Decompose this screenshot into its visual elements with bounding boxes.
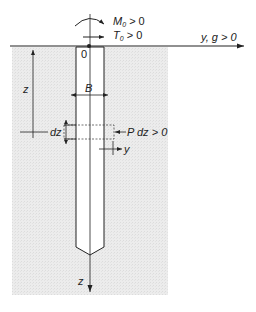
depth-label: z bbox=[22, 83, 29, 95]
moment-label: M0 > 0 bbox=[113, 15, 145, 28]
origin-point bbox=[87, 44, 91, 48]
origin-label: 0 bbox=[81, 48, 87, 60]
y-axis-label: y, g > 0 bbox=[200, 31, 237, 43]
width-label: B bbox=[85, 82, 92, 94]
dz-label: dz bbox=[50, 126, 62, 138]
soil-reaction-label: P dz > 0 bbox=[127, 126, 168, 138]
moment-arrow-icon bbox=[75, 18, 104, 26]
z-axis-label: z bbox=[77, 275, 84, 287]
shear-label: T0 > 0 bbox=[113, 29, 142, 42]
pile-diagram: M0 > 0 T0 > 0 y, g > 0 0 z B dz P dz > 0… bbox=[0, 0, 256, 312]
